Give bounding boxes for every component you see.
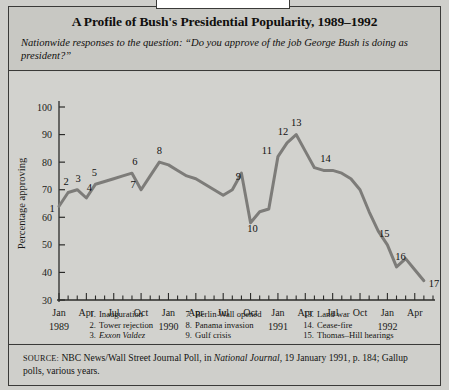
legend-item-label: Berlin Wall opened <box>195 309 261 319</box>
data-point-label-5: 5 <box>92 167 97 178</box>
data-point-label-1: 1 <box>49 203 54 214</box>
figure-container: A Profile of Bush's Presidential Popular… <box>0 0 449 390</box>
y-axis-tick-label: 70 <box>42 184 52 195</box>
data-point-label-8: 8 <box>157 145 162 156</box>
legend-column-1: 1.Inauguration2.Tower rejection3.Exxon V… <box>83 309 179 343</box>
chart-panel: 30405060708090100Percentage approvingJan… <box>9 72 440 343</box>
top-border-notch <box>156 0 290 9</box>
source-note: SOURCE: NBC News/Wall Street Journal Pol… <box>9 344 440 385</box>
legend-item-italic: Exxon Valdez <box>99 330 145 340</box>
legend-item-number: 8. <box>179 320 192 331</box>
legend-item: 4.Iowa tragedy <box>83 341 179 343</box>
y-axis-tick-label: 90 <box>42 129 52 140</box>
line-chart-svg: 30405060708090100Percentage approvingJan… <box>9 72 440 343</box>
data-point-label-13: 13 <box>291 117 302 128</box>
legend-item-label: Blockade <box>195 341 227 343</box>
y-axis-tick-label: 100 <box>37 102 52 113</box>
legend-item: 10.Blockade <box>179 341 301 343</box>
legend-item-label: Gulf crisis <box>195 330 231 340</box>
legend-item-italic: Iowa <box>99 341 116 343</box>
figure-subtitle: Nationwide responses to the question: “D… <box>21 36 428 62</box>
data-point-label-11: 11 <box>262 145 272 156</box>
figure-header: A Profile of Bush's Presidential Popular… <box>9 7 440 71</box>
data-line-series <box>59 135 424 281</box>
legend-column-2: 7.Berlin Wall opened8.Panama invasion9.G… <box>179 309 301 343</box>
legend-item: 2.Tower rejection <box>83 320 179 331</box>
y-axis-tick-label: 40 <box>42 267 52 278</box>
data-point-label-7: 7 <box>130 179 135 190</box>
y-axis-tick-label: 30 <box>42 295 52 306</box>
x-axis-year-label: 1989 <box>49 321 69 332</box>
legend-item-number: 3. <box>83 330 96 341</box>
legend-item-label: tragedy <box>116 341 144 343</box>
source-label: SOURCE: <box>23 354 59 363</box>
legend-item-number: 14. <box>301 320 314 331</box>
legend-item-label: Tower rejection <box>99 320 153 330</box>
legend-item-number: 2. <box>83 320 96 331</box>
legend-item: 9.Gulf crisis <box>179 330 301 341</box>
data-point-label-6: 6 <box>132 156 137 167</box>
data-point-label-16: 16 <box>395 251 406 262</box>
data-point-label-4: 4 <box>87 182 93 193</box>
legend-item-number: 15. <box>301 330 314 341</box>
legend-item: 13.Land war <box>301 309 431 320</box>
legend-item-label: Panama invasion <box>195 320 253 330</box>
legend-item-number: 10. <box>179 341 192 343</box>
legend-item-number: 13. <box>301 309 314 320</box>
legend-item: 1.Inauguration <box>83 309 179 320</box>
data-point-label-14: 14 <box>320 153 331 164</box>
legend-item: 8.Panama invasion <box>179 320 301 331</box>
legend-item-label: Thomas–Hill hearings <box>317 330 394 340</box>
x-axis-tick-label: Jan <box>52 307 65 318</box>
legend-item: 7.Berlin Wall opened <box>179 309 301 320</box>
chart-legend: 1.Inauguration2.Tower rejection3.Exxon V… <box>83 309 433 343</box>
legend-item: 3.Exxon Valdez <box>83 330 179 341</box>
legend-item-number: 4. <box>83 341 96 343</box>
legend-item: 14.Cease-fire <box>301 320 431 331</box>
legend-item: 16.Perot on Larry King <box>301 341 431 343</box>
data-point-label-10: 10 <box>247 223 258 234</box>
data-point-label-2: 2 <box>63 176 68 187</box>
legend-column-3: 13.Land war14.Cease-fire15.Thomas–Hill h… <box>301 309 431 343</box>
legend-item-label: Perot on Larry King <box>317 341 386 343</box>
y-axis-title: Percentage approving <box>16 157 27 249</box>
legend-item-label: Land war <box>317 309 350 319</box>
source-text-before: NBC News/Wall Street Journal Poll, in <box>59 352 214 363</box>
legend-item-number: 7. <box>179 309 192 320</box>
legend-item-label: Inauguration <box>99 309 143 319</box>
legend-item-number: 1. <box>83 309 96 320</box>
page-title: A Profile of Bush's Presidential Popular… <box>21 14 428 30</box>
legend-item-label: Cease-fire <box>317 320 352 330</box>
data-point-label-12: 12 <box>278 126 289 137</box>
legend-item: 15.Thomas–Hill hearings <box>301 330 431 341</box>
y-axis-tick-label: 80 <box>42 157 52 168</box>
y-axis-tick-label: 50 <box>42 239 52 250</box>
data-point-label-17: 17 <box>429 278 440 289</box>
legend-item-number: 16. <box>301 341 314 343</box>
source-italic: National Journal, <box>214 352 282 363</box>
legend-item-number: 9. <box>179 330 192 341</box>
data-point-label-15: 15 <box>379 228 390 239</box>
data-point-label-3: 3 <box>76 173 81 184</box>
data-point-label-9: 9 <box>236 171 241 182</box>
